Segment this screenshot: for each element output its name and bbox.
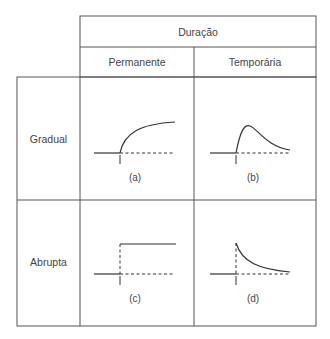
row-label-abrupta: Abrupta <box>17 256 80 268</box>
column-header-temporaria: Temporária <box>194 56 316 68</box>
panel-d-graph <box>210 243 291 285</box>
panel-a-caption: (a) <box>120 172 150 183</box>
header-title: Duração <box>80 26 316 38</box>
panel-b-graph <box>210 126 291 164</box>
panel-d-caption: (d) <box>238 293 268 304</box>
panel-b-caption: (b) <box>238 172 268 183</box>
panel-a-graph <box>94 122 175 164</box>
column-header-permanente: Permanente <box>80 56 194 68</box>
diagram-grid <box>0 0 330 339</box>
row-label-gradual: Gradual <box>17 133 80 145</box>
panel-c-caption: (c) <box>120 293 150 304</box>
panel-c-graph <box>94 244 176 285</box>
